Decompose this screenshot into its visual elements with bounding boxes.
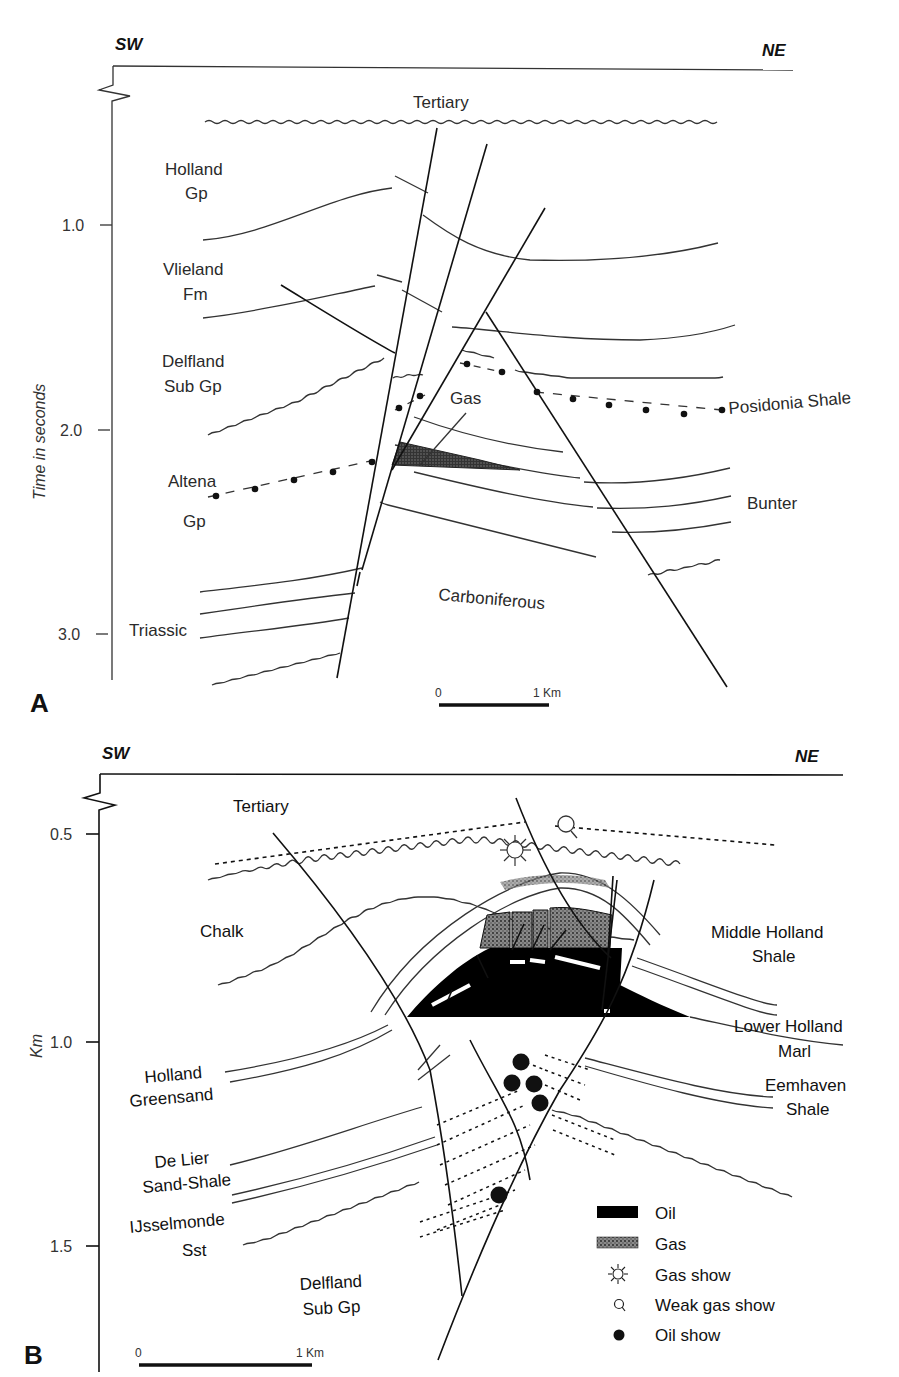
horizon-bunter-2 — [597, 496, 731, 508]
panel-label-b: B — [24, 1340, 43, 1370]
label-middle-holland-2: Shale — [752, 947, 795, 966]
gas-show-marker — [500, 835, 531, 866]
horizon-triassic-1 — [200, 568, 362, 592]
scale-a-end: 1 Km — [533, 686, 561, 700]
direction-sw-a: SW — [115, 35, 144, 54]
frame-top-b — [100, 774, 843, 775]
scale-b-start: 0 — [135, 1346, 142, 1360]
horizon-bunter-3 — [612, 522, 731, 532]
label-de-lier-2: Sand-Shale — [142, 1170, 232, 1197]
panel-a: SW NE 1.0 2.0 3.0 Time in seconds — [30, 35, 852, 718]
legend-gas: Gas — [655, 1235, 686, 1254]
label-triassic: Triassic — [129, 621, 187, 640]
label-holland-greensand-1: Holland — [144, 1063, 203, 1087]
direction-ne-a: NE — [762, 41, 786, 60]
label-delfland-a-1: Delfland — [162, 352, 224, 371]
label-eemhaven-1: Eemhaven — [765, 1076, 846, 1095]
scale-bar-a: 0 1 Km — [435, 686, 561, 705]
label-holland-gp-1: Holland — [165, 160, 223, 179]
y-ticks-b: 0.5 1.0 1.5 — [50, 826, 99, 1255]
horizon-delfland-unconf-left — [208, 358, 384, 435]
filled-dot-icon — [614, 1330, 625, 1341]
magnifier-circle-icon — [615, 1300, 626, 1312]
horizon-holland-base-left — [203, 188, 392, 240]
tick-2-0: 2.0 — [60, 422, 82, 439]
label-altena-1: Altena — [168, 472, 217, 491]
gas-block-4 — [550, 907, 612, 948]
label-vlieland-1: Vlieland — [163, 260, 224, 279]
panel-b: SW NE 0.5 1.0 1.5 Km — [24, 744, 846, 1372]
tick-1-5: 1.5 — [50, 1238, 72, 1255]
horizon-holland-base-right — [423, 215, 718, 260]
label-carboniferous: Carboniferous — [438, 585, 546, 613]
horizon-delfland-unconf-right — [515, 370, 723, 378]
tick-0-5: 0.5 — [50, 826, 72, 843]
label-lower-holland-1: Lower Holland — [734, 1017, 843, 1036]
legend-oil: Oil — [655, 1204, 676, 1223]
label-middle-holland-1: Middle Holland — [711, 923, 823, 942]
tick-1-0: 1.0 — [62, 217, 84, 234]
y-ticks-a: 1.0 2.0 3.0 — [58, 217, 112, 643]
tick-1-0-b: 1.0 — [50, 1034, 72, 1051]
y-axis-title-a: Time in seconds — [31, 384, 48, 500]
base-triassic-unconformity — [380, 502, 596, 557]
sun-burst-icon — [608, 1264, 628, 1284]
label-de-lier-1: De Lier — [154, 1148, 211, 1172]
y-axis-a — [99, 66, 130, 680]
gas-stipple-swatch — [597, 1237, 638, 1248]
label-tertiary-b: Tertiary — [233, 797, 289, 816]
label-altena-2: Gp — [183, 512, 206, 531]
horizon-bunter-1 — [584, 468, 730, 483]
scale-bar-b: 0 1 Km — [135, 1346, 324, 1365]
label-delfland-b-1: Delfland — [299, 1272, 362, 1294]
label-posidonia-shale: Posidonia Shale — [728, 388, 852, 418]
legend: Oil Gas Gas show Weak gas show Oil show — [597, 1204, 775, 1345]
direction-sw-b: SW — [102, 744, 131, 763]
scale-a-start: 0 — [435, 686, 442, 700]
horizon-triassic-3 — [200, 618, 349, 638]
label-delfland-a-2: Sub Gp — [164, 377, 222, 396]
label-gas-a: Gas — [450, 389, 481, 408]
label-vlieland-2: Fm — [183, 285, 208, 304]
legend-oil-show: Oil show — [655, 1326, 721, 1345]
horizon-vlieland-base-right — [452, 325, 735, 340]
tertiary-unconformity-a — [205, 121, 717, 124]
legend-weak-gas-show: Weak gas show — [655, 1296, 775, 1315]
gas-block-1 — [480, 912, 510, 948]
label-holland-greensand-2: Greensand — [129, 1085, 214, 1111]
direction-ne-b: NE — [795, 747, 819, 766]
cross-section-figure: SW NE 1.0 2.0 3.0 Time in seconds — [0, 0, 899, 1377]
label-delfland-b-2: Sub Gp — [302, 1297, 361, 1319]
oil-fill-swatch — [597, 1206, 638, 1218]
scale-b-end: 1 Km — [296, 1346, 324, 1360]
label-ijsselmonde-1: IJsselmonde — [129, 1210, 226, 1237]
oil-accumulation-b — [407, 948, 690, 1017]
y-axis-b — [84, 774, 115, 1372]
panel-label-a: A — [30, 688, 49, 718]
label-holland-gp-2: Gp — [185, 184, 208, 203]
label-bunter: Bunter — [747, 494, 797, 513]
frame-top-a — [113, 66, 793, 70]
label-ijsselmonde-2: Sst — [182, 1241, 207, 1260]
label-chalk: Chalk — [200, 922, 244, 941]
horizon-triassic-2 — [200, 593, 355, 614]
tick-3-0: 3.0 — [58, 626, 80, 643]
label-lower-holland-2: Marl — [778, 1042, 811, 1061]
y-axis-title-b: Km — [28, 1034, 45, 1058]
label-eemhaven-2: Shale — [786, 1100, 829, 1119]
label-tertiary-a: Tertiary — [413, 93, 469, 112]
legend-gas-show: Gas show — [655, 1266, 731, 1285]
gas-accumulation-a — [392, 442, 520, 470]
posidonia-shale-marker — [208, 361, 725, 500]
